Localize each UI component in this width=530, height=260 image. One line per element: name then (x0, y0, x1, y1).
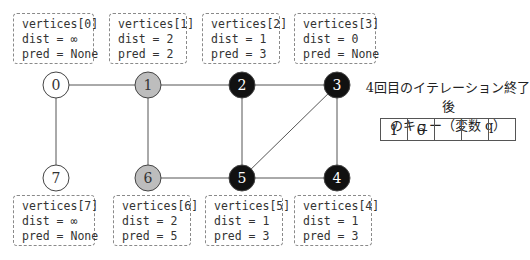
queue-cell (462, 119, 489, 141)
node-2: 2 (229, 72, 255, 98)
node-3: 3 (324, 72, 350, 98)
node-label: 2 (238, 77, 247, 93)
node-label: 3 (333, 77, 342, 93)
queue-cell: 1 (381, 119, 408, 141)
node-label: 0 (52, 77, 61, 93)
node-label: 7 (52, 170, 61, 186)
node-5: 5 (229, 165, 255, 191)
node-label: 4 (333, 170, 342, 186)
node-label: 5 (238, 170, 247, 186)
queue-table: 1 6 (380, 118, 516, 141)
queue-row: 1 6 (381, 119, 516, 141)
node-1: 1 (135, 72, 161, 98)
node-7: 7 (43, 165, 69, 191)
edge-3-5 (242, 85, 337, 178)
graph-nodes: 01234567 (43, 72, 350, 191)
queue-cell: 6 (408, 119, 435, 141)
node-0: 0 (43, 72, 69, 98)
queue-cell (435, 119, 462, 141)
queue-title-line1: 4回目のイテレーション終了後 (363, 78, 530, 116)
node-6: 6 (135, 165, 161, 191)
node-label: 6 (144, 170, 153, 186)
node-label: 1 (144, 77, 153, 93)
queue-cell (489, 119, 516, 141)
node-4: 4 (324, 165, 350, 191)
graph-edges (56, 85, 337, 178)
